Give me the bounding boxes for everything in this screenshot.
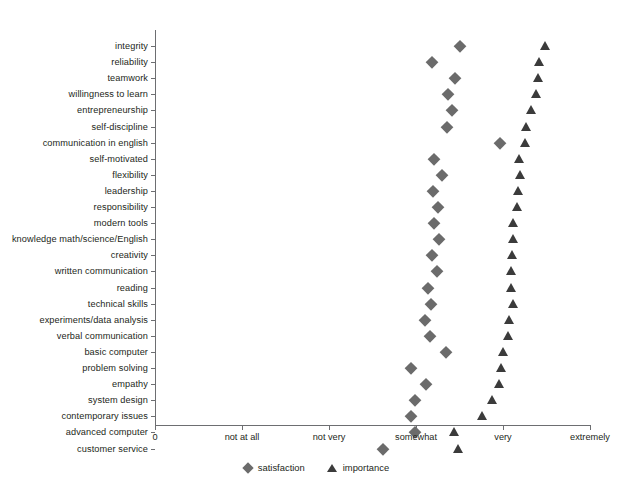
y-axis-label: empathy: [112, 379, 148, 389]
data-point-importance: [514, 154, 524, 163]
x-axis-label: not very: [313, 432, 346, 442]
data-point-importance: [453, 444, 463, 453]
y-axis-tick: [151, 288, 155, 289]
y-axis-label: modern tools: [94, 218, 148, 228]
y-axis-label: system design: [88, 395, 148, 405]
data-point-satisfaction: [405, 410, 417, 422]
y-axis-tick: [151, 110, 155, 111]
y-axis-label: technical skills: [88, 299, 148, 309]
y-axis-tick: [151, 352, 155, 353]
y-axis-tick: [151, 94, 155, 95]
data-point-satisfaction: [420, 378, 432, 390]
y-axis-label: self-motivated: [90, 154, 148, 164]
y-axis-label: teamwork: [107, 73, 148, 83]
y-axis-label: written communication: [55, 266, 148, 276]
y-axis-tick: [151, 78, 155, 79]
y-axis-tick: [151, 159, 155, 160]
data-point-importance: [533, 73, 543, 82]
data-point-importance: [508, 234, 518, 243]
y-axis-label: flexibility: [112, 170, 148, 180]
x-axis-line: [155, 425, 591, 426]
data-point-importance: [512, 202, 522, 211]
y-axis-labels: integrityreliabilityteamworkwillingness …: [0, 30, 148, 420]
y-axis-label: reliability: [111, 57, 148, 67]
y-axis-label: reading: [117, 283, 148, 293]
y-axis-tick: [151, 46, 155, 47]
y-axis-tick: [151, 207, 155, 208]
y-axis-label: contemporary issues: [61, 411, 148, 421]
data-point-importance: [526, 105, 536, 114]
data-point-importance: [498, 347, 508, 356]
legend-label-satisfaction: satisfaction: [258, 462, 305, 473]
x-axis-tick: [329, 425, 330, 430]
data-point-importance: [508, 299, 518, 308]
y-axis-tick: [151, 304, 155, 305]
x-axis-label: 0: [152, 432, 157, 442]
y-axis-label: integrity: [115, 41, 148, 51]
data-point-satisfaction: [454, 40, 466, 52]
data-point-satisfaction: [422, 281, 434, 293]
y-axis-tick: [151, 416, 155, 417]
x-axis-label: very: [494, 432, 511, 442]
x-axis-label: somewhat: [395, 432, 437, 442]
chart-legend: satisfaction importance: [0, 462, 633, 473]
y-axis-tick: [151, 223, 155, 224]
data-point-importance: [496, 363, 506, 372]
data-point-satisfaction: [424, 330, 436, 342]
x-axis-tick: [155, 425, 156, 430]
y-axis-label: advanced computer: [66, 427, 148, 437]
y-axis-label: experiments/data analysis: [39, 315, 148, 325]
data-point-importance: [449, 427, 459, 436]
y-axis-tick: [151, 320, 155, 321]
data-point-importance: [503, 331, 513, 340]
data-point-satisfaction: [432, 201, 444, 213]
data-point-satisfaction: [446, 104, 458, 116]
plot-area: [155, 30, 590, 420]
y-axis-label: knowledge math/science/English: [12, 234, 148, 244]
y-axis-label: entrepreneurship: [77, 105, 148, 115]
y-axis-tick: [151, 449, 155, 450]
data-point-importance: [506, 266, 516, 275]
diamond-marker-icon: [242, 462, 253, 473]
legend-item-importance: importance: [327, 462, 389, 473]
y-axis-tick: [151, 175, 155, 176]
y-axis-tick: [151, 239, 155, 240]
data-point-importance: [520, 138, 530, 147]
y-axis-label: basic computer: [84, 347, 148, 357]
data-point-importance: [534, 57, 544, 66]
data-point-satisfaction: [433, 233, 445, 245]
data-point-importance: [506, 283, 516, 292]
x-axis-tick: [416, 425, 417, 430]
y-axis-tick: [151, 400, 155, 401]
data-point-satisfaction: [494, 137, 506, 149]
data-point-satisfaction: [449, 72, 461, 84]
y-axis-tick: [151, 271, 155, 272]
data-point-satisfaction: [428, 153, 440, 165]
data-point-satisfaction: [428, 217, 440, 229]
y-axis-tick: [151, 127, 155, 128]
x-axis-tick: [503, 425, 504, 430]
y-axis-label: self-discipline: [91, 122, 148, 132]
y-axis-tick: [151, 191, 155, 192]
data-point-satisfaction: [427, 185, 439, 197]
y-axis-tick: [151, 143, 155, 144]
x-axis-label: not at all: [225, 432, 260, 442]
data-point-importance: [513, 186, 523, 195]
data-point-satisfaction: [419, 314, 431, 326]
y-axis-label: willingness to learn: [69, 89, 148, 99]
data-point-satisfaction: [431, 265, 443, 277]
y-axis-label: leadership: [105, 186, 148, 196]
data-point-importance: [531, 89, 541, 98]
data-point-satisfaction: [409, 394, 421, 406]
data-point-importance: [540, 41, 550, 50]
y-axis-label: problem solving: [82, 363, 148, 373]
data-point-satisfaction: [436, 169, 448, 181]
data-point-importance: [487, 395, 497, 404]
scatter-chart: integrityreliabilityteamworkwillingness …: [0, 0, 633, 496]
y-axis-tick: [151, 384, 155, 385]
y-axis-label: customer service: [77, 444, 148, 454]
triangle-marker-icon: [327, 464, 337, 472]
data-point-importance: [477, 411, 487, 420]
x-axis-tick: [242, 425, 243, 430]
data-point-importance: [507, 250, 517, 259]
